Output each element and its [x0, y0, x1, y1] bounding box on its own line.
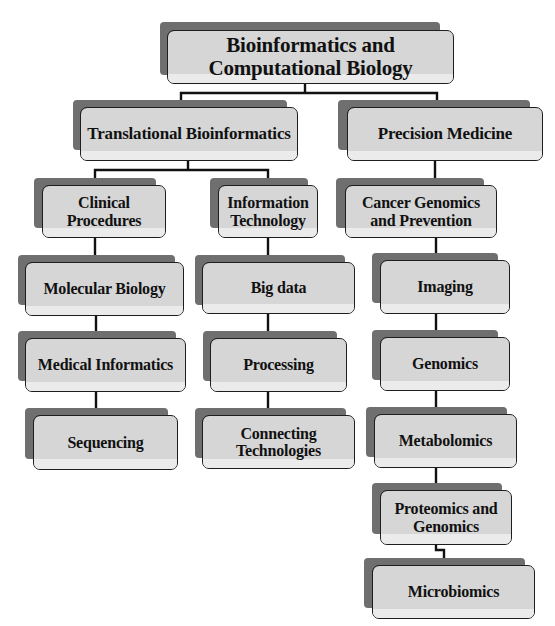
root-line1: Bioinformatics and	[222, 33, 399, 57]
clinical-line2: Procedures	[63, 212, 146, 229]
imaging-label: Imaging	[413, 278, 477, 295]
node-box-microbiomics: Microbiomics	[372, 565, 535, 619]
proteomics-line2: Genomics	[409, 518, 483, 535]
connector-proteomics-microbiomics	[436, 544, 444, 558]
node-box-molecular: Molecular Biology	[25, 262, 184, 316]
connecting-line2: Technologies	[232, 442, 325, 459]
node-box-precision: Precision Medicine	[347, 107, 543, 161]
translational-label: Translational Bioinformatics	[83, 125, 294, 143]
node-box-imaging: Imaging	[380, 260, 510, 314]
node-box-proteomics: Proteomics andGenomics	[380, 490, 512, 545]
cancer-line1: Cancer Genomics	[358, 194, 484, 211]
root-line2: Computational Biology	[204, 56, 416, 80]
processing-label: Processing	[239, 356, 318, 373]
proteomics-line1: Proteomics and	[390, 500, 501, 517]
node-box-bigdata: Big data	[202, 262, 355, 314]
precision-label: Precision Medicine	[374, 125, 516, 143]
sequencing-label: Sequencing	[63, 434, 147, 451]
node-box-sequencing: Sequencing	[33, 415, 178, 470]
genomics-label: Genomics	[408, 355, 482, 372]
node-box-processing: Processing	[210, 338, 347, 392]
molecular-label: Molecular Biology	[39, 280, 169, 297]
medical-label: Medical Informatics	[34, 356, 177, 373]
clinical-line1: Clinical	[74, 194, 134, 211]
node-box-infotech: InformationTechnology	[218, 185, 318, 238]
connector-root-children	[181, 83, 437, 100]
node-box-genomics: Genomics	[380, 337, 510, 391]
node-box-cancer: Cancer Genomicsand Prevention	[345, 185, 497, 238]
bioinformatics-hierarchy-diagram: Bioinformatics andComputational Biology …	[0, 0, 555, 626]
node-box-root: Bioinformatics andComputational Biology	[167, 30, 454, 84]
bigdata-label: Big data	[247, 279, 311, 296]
infotech-line2: Technology	[226, 212, 310, 229]
microbiomics-label: Microbiomics	[404, 583, 504, 600]
infotech-line1: Information	[223, 194, 312, 211]
node-box-metabolomics: Metabolomics	[374, 414, 517, 468]
node-box-translational: Translational Bioinformatics	[80, 107, 298, 161]
node-box-clinical: ClinicalProcedures	[42, 185, 166, 238]
node-box-medical: Medical Informatics	[25, 338, 186, 392]
metabolomics-label: Metabolomics	[395, 432, 497, 449]
connector-translational-children	[95, 160, 268, 178]
connecting-line1: Connecting	[236, 425, 320, 442]
node-box-connecting: ConnectingTechnologies	[202, 415, 355, 469]
cancer-line2: and Prevention	[366, 212, 475, 229]
